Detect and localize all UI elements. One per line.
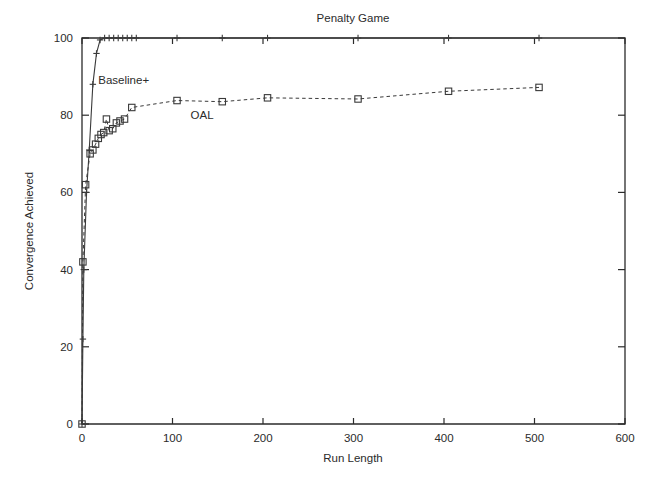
data-point-marker bbox=[355, 35, 361, 41]
data-point-marker bbox=[83, 189, 89, 195]
data-series-layer bbox=[79, 35, 542, 427]
chart-title: Penalty Game bbox=[317, 12, 390, 24]
data-point-marker bbox=[536, 35, 542, 41]
chart-figure: Penalty Game 0100200300400500600 0204060… bbox=[0, 0, 665, 478]
series-annotations: Baseline+OAL bbox=[98, 74, 214, 121]
series-annotation-baseline-: Baseline+ bbox=[98, 74, 149, 86]
data-point-marker bbox=[90, 81, 96, 87]
series-baseline- bbox=[79, 35, 542, 427]
series-path bbox=[82, 38, 539, 424]
x-tick-label: 100 bbox=[163, 432, 182, 444]
series-oal bbox=[79, 84, 542, 427]
x-tick-label: 400 bbox=[434, 432, 453, 444]
y-tick-label: 60 bbox=[60, 186, 73, 198]
data-point-marker bbox=[174, 35, 180, 41]
data-point-marker bbox=[264, 35, 270, 41]
x-tick-label: 600 bbox=[615, 432, 634, 444]
y-tick-label: 80 bbox=[60, 109, 73, 121]
series-annotation-oal: OAL bbox=[191, 109, 215, 121]
y-tick-label: 20 bbox=[60, 341, 73, 353]
data-point-marker bbox=[133, 35, 139, 41]
x-axis-title: Run Length bbox=[323, 452, 382, 464]
x-tick-label: 200 bbox=[253, 432, 272, 444]
series-path bbox=[82, 87, 539, 424]
plot-frame bbox=[82, 38, 625, 424]
penalty-game-line-chart: Penalty Game 0100200300400500600 0204060… bbox=[0, 0, 665, 478]
x-tick-label: 0 bbox=[79, 432, 85, 444]
data-point-marker bbox=[445, 35, 451, 41]
data-point-marker bbox=[93, 50, 99, 56]
data-point-marker bbox=[121, 116, 127, 122]
y-axis-ticks: 020406080100 bbox=[54, 32, 625, 430]
x-tick-label: 300 bbox=[344, 432, 363, 444]
y-tick-label: 0 bbox=[67, 418, 73, 430]
y-axis-title: Convergence Achieved bbox=[23, 172, 35, 290]
data-point-marker bbox=[219, 35, 225, 41]
x-tick-label: 500 bbox=[525, 432, 544, 444]
y-tick-label: 100 bbox=[54, 32, 73, 44]
y-tick-label: 40 bbox=[60, 264, 73, 276]
